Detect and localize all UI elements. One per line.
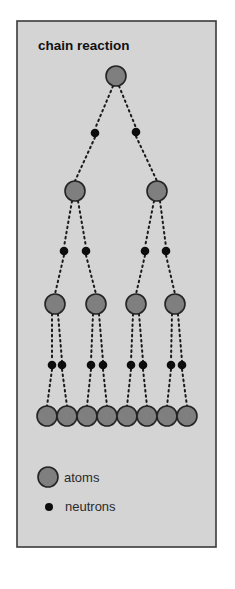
atom-circle <box>65 181 85 201</box>
atom-circle <box>165 294 185 314</box>
atom-circle <box>57 406 77 426</box>
atom-circle <box>137 406 157 426</box>
neutron-dot <box>162 247 171 256</box>
neutron-dot <box>60 247 69 256</box>
atom-circle <box>45 294 65 314</box>
atom-circle <box>97 406 117 426</box>
atom-circle <box>106 66 126 86</box>
neutron-dot <box>178 361 187 370</box>
neutron-dot <box>167 361 176 370</box>
neutron-dot <box>48 361 57 370</box>
neutron-dot <box>127 361 136 370</box>
neutron-dot <box>58 361 67 370</box>
chain-reaction-diagram: chain reaction atomsneutrons <box>0 0 235 589</box>
atom-circle <box>177 406 197 426</box>
neutron-dot <box>91 129 100 138</box>
legend-neutron-icon <box>45 503 53 511</box>
neutron-dot <box>141 247 150 256</box>
atom-circle <box>157 406 177 426</box>
atom-circle <box>37 406 57 426</box>
atom-circle <box>86 294 106 314</box>
legend-label-neutron: neutrons <box>65 499 116 514</box>
legend-label-atom: atoms <box>64 470 100 485</box>
atom-circle <box>126 294 146 314</box>
legend-atom-icon <box>38 467 58 487</box>
neutron-dot <box>87 361 96 370</box>
neutron-dot <box>99 361 108 370</box>
atom-circle <box>77 406 97 426</box>
neutron-dot <box>82 247 91 256</box>
neutron-dot <box>139 361 148 370</box>
neutron-dot <box>132 128 141 137</box>
diagram-title: chain reaction <box>38 38 130 53</box>
atom-circle <box>117 406 137 426</box>
atom-circle <box>147 181 167 201</box>
